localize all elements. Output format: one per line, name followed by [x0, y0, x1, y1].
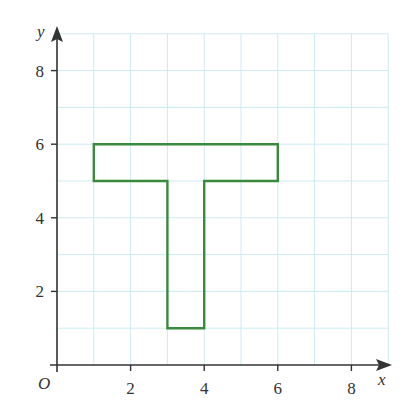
- y-tick-label: 6: [36, 135, 45, 154]
- shape-layer: [94, 144, 278, 328]
- y-tick-label: 8: [36, 62, 45, 81]
- coordinate-grid-chart: 24682468 x y O: [0, 0, 405, 420]
- y-axis-label: y: [35, 22, 45, 41]
- ticks: [51, 71, 351, 371]
- axes: [50, 26, 392, 372]
- y-tick-label: 4: [36, 209, 45, 228]
- x-tick-label: 2: [126, 379, 135, 398]
- gridlines: [57, 34, 388, 365]
- origin-label: O: [38, 374, 50, 393]
- x-tick-label: 4: [200, 379, 209, 398]
- t-shape-polygon: [94, 144, 278, 328]
- x-tick-label: 6: [274, 379, 283, 398]
- x-tick-label: 8: [347, 379, 356, 398]
- x-axis-label: x: [377, 370, 386, 389]
- tick-labels: 24682468: [36, 62, 356, 398]
- y-tick-label: 2: [36, 282, 45, 301]
